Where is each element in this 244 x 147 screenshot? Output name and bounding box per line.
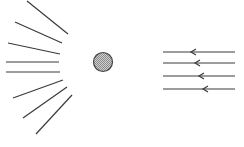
incident-ray-2 bbox=[163, 60, 235, 66]
scattering-object bbox=[94, 53, 113, 72]
scattered-ray-3 bbox=[8, 43, 60, 54]
scattering-diagram bbox=[0, 0, 244, 147]
scattered-ray-1 bbox=[27, 1, 68, 34]
scattered-ray-8 bbox=[36, 95, 72, 134]
incident-ray-4 bbox=[163, 86, 235, 92]
incident-rays bbox=[163, 49, 235, 92]
scattered-rays bbox=[6, 1, 72, 134]
incident-ray-3 bbox=[163, 73, 235, 79]
incident-ray-1 bbox=[163, 49, 235, 55]
scattered-ray-2 bbox=[15, 22, 62, 43]
